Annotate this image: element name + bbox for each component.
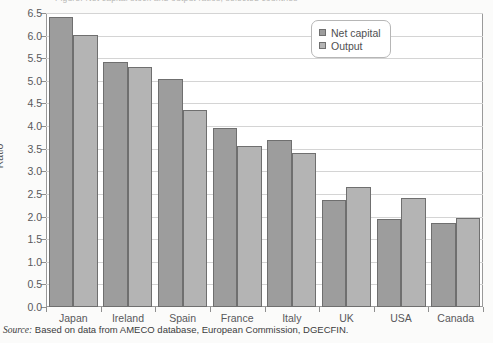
bar-group bbox=[431, 13, 480, 307]
y-tick-label: 2.5 bbox=[2, 188, 42, 200]
bar bbox=[346, 187, 371, 307]
bar-group bbox=[267, 13, 316, 307]
bar bbox=[456, 218, 481, 307]
bar bbox=[183, 110, 208, 307]
bar bbox=[49, 17, 74, 307]
bar bbox=[292, 153, 317, 307]
source-note: Source: Based on data from AMECO databas… bbox=[3, 324, 348, 335]
x-tick-mark bbox=[265, 307, 266, 312]
x-tick-label: Italy bbox=[282, 312, 301, 324]
y-axis-label: Ratio bbox=[0, 144, 5, 169]
y-tick-label: 2.0 bbox=[2, 211, 42, 223]
bar-group bbox=[49, 13, 98, 307]
legend-swatch-icon bbox=[319, 42, 326, 49]
y-tick-label: 3.5 bbox=[2, 143, 42, 155]
bar-group bbox=[158, 13, 207, 307]
legend-item: Net capital bbox=[319, 26, 381, 39]
y-tick-label: 6.5 bbox=[2, 7, 42, 19]
x-tick-label: Ireland bbox=[112, 312, 144, 324]
source-label: Source: bbox=[3, 325, 32, 335]
y-tick-label: 4.0 bbox=[2, 120, 42, 132]
y-tick-label: 6.0 bbox=[2, 30, 42, 42]
x-tick-label: USA bbox=[390, 312, 412, 324]
clipped-title-strip: Figure: Net capital stock and output rat… bbox=[0, 0, 493, 8]
bar bbox=[73, 35, 98, 307]
figure-title: Figure: Net capital stock and output rat… bbox=[55, 0, 298, 3]
bar bbox=[237, 146, 262, 307]
x-tick-mark bbox=[374, 307, 375, 312]
bar bbox=[128, 67, 153, 307]
bar bbox=[267, 140, 292, 307]
bars-layer bbox=[46, 13, 483, 307]
legend-label: Output bbox=[331, 40, 363, 52]
bar bbox=[213, 128, 238, 307]
legend-label: Net capital bbox=[331, 27, 381, 39]
bar bbox=[377, 219, 402, 307]
x-tick-label: Spain bbox=[169, 312, 196, 324]
y-tick-label: 4.5 bbox=[2, 97, 42, 109]
source-text: Based on data from AMECO database, Europ… bbox=[32, 324, 348, 335]
bar bbox=[158, 79, 183, 307]
bar-group bbox=[213, 13, 262, 307]
y-tick-label: 1.5 bbox=[2, 233, 42, 245]
figure-container: Figure: Net capital stock and output rat… bbox=[0, 0, 493, 343]
x-tick-label: Canada bbox=[437, 312, 474, 324]
x-tick-label: Japan bbox=[59, 312, 88, 324]
bar bbox=[401, 198, 426, 307]
x-tick-mark bbox=[101, 307, 102, 312]
x-tick-mark bbox=[155, 307, 156, 312]
x-tick-label: France bbox=[221, 312, 254, 324]
x-tick-mark bbox=[319, 307, 320, 312]
legend-swatch-icon bbox=[319, 29, 326, 36]
y-tick-label: 5.0 bbox=[2, 75, 42, 87]
x-tick-mark bbox=[46, 307, 47, 312]
bar-group bbox=[103, 13, 152, 307]
y-tick-label: 3.0 bbox=[2, 165, 42, 177]
legend-item: Output bbox=[319, 39, 381, 52]
x-tick-label: UK bbox=[339, 312, 354, 324]
x-tick-mark bbox=[483, 307, 484, 312]
bar bbox=[322, 200, 347, 307]
y-tick-label: 0.5 bbox=[2, 278, 42, 290]
y-tick-label: 0.0 bbox=[2, 301, 42, 313]
x-tick-mark bbox=[428, 307, 429, 312]
y-tick-label: 1.0 bbox=[2, 256, 42, 268]
x-tick-mark bbox=[210, 307, 211, 312]
bar bbox=[431, 223, 456, 307]
y-tick-label: 5.5 bbox=[2, 52, 42, 64]
chart-legend: Net capitalOutput bbox=[311, 20, 391, 58]
bar bbox=[103, 62, 128, 307]
